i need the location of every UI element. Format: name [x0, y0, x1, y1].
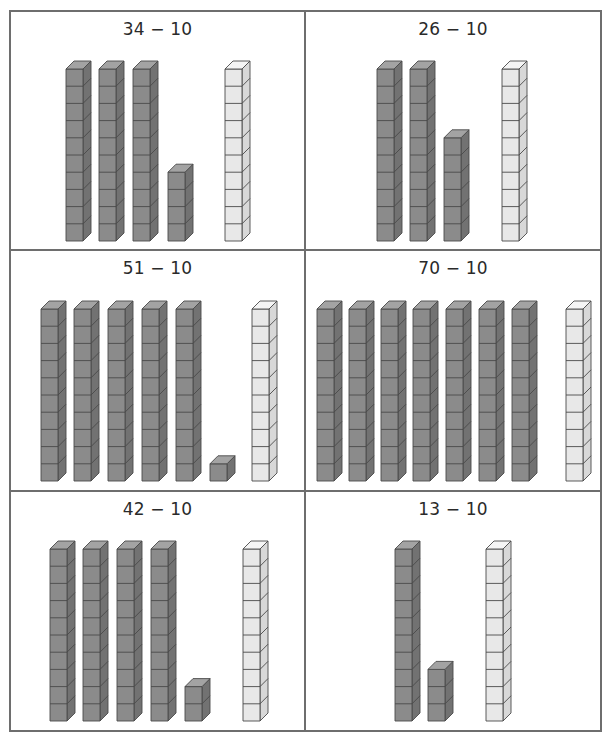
base-ten-blocks: [306, 492, 600, 730]
tens-rod: [377, 61, 402, 241]
tens-rod: [41, 301, 66, 481]
tens-rod: [133, 61, 158, 241]
tens-rod: [142, 301, 167, 481]
subtract-ten-rod: [243, 541, 268, 721]
ones-stack: [210, 456, 235, 481]
subtract-ten-rod: [502, 61, 527, 241]
panel-42-minus-10: 42 − 10: [11, 492, 306, 730]
panel-70-minus-10: 70 − 10: [306, 251, 600, 492]
ones-stack: [444, 130, 469, 241]
tens-rod: [83, 541, 108, 721]
tens-rod: [410, 61, 435, 241]
tens-rod: [446, 301, 471, 481]
ones-stack: [168, 164, 193, 241]
tens-rod: [117, 541, 142, 721]
tens-rod: [108, 301, 133, 481]
base-ten-blocks: [11, 251, 306, 492]
tens-rod: [99, 61, 124, 241]
tens-rod: [50, 541, 75, 721]
tens-rod: [176, 301, 201, 481]
panel-13-minus-10: 13 − 10: [306, 492, 600, 730]
subtract-ten-rod: [225, 61, 250, 241]
tens-rod: [413, 301, 438, 481]
tens-rod: [512, 301, 537, 481]
tens-rod: [151, 541, 176, 721]
base-ten-blocks: [11, 492, 306, 730]
subtraction-grid: 34 − 10 26 − 10 51 − 10 70 − 10 42 − 10 …: [9, 10, 602, 732]
panel-34-minus-10: 34 − 10: [11, 12, 306, 251]
tens-rod: [381, 301, 406, 481]
clipped-header-remnant: [0, 0, 611, 6]
base-ten-blocks: [11, 12, 306, 251]
tens-rod: [479, 301, 504, 481]
panel-26-minus-10: 26 − 10: [306, 12, 600, 251]
tens-rod: [317, 301, 342, 481]
ones-stack: [428, 661, 453, 721]
subtract-ten-rod: [566, 301, 591, 481]
tens-rod: [349, 301, 374, 481]
tens-rod: [66, 61, 91, 241]
tens-rod: [395, 541, 420, 721]
base-ten-blocks: [306, 12, 600, 251]
panel-51-minus-10: 51 − 10: [11, 251, 306, 492]
subtract-ten-rod: [486, 541, 511, 721]
subtract-ten-rod: [252, 301, 277, 481]
base-ten-blocks: [306, 251, 600, 492]
tens-rod: [74, 301, 99, 481]
ones-stack: [185, 679, 210, 721]
